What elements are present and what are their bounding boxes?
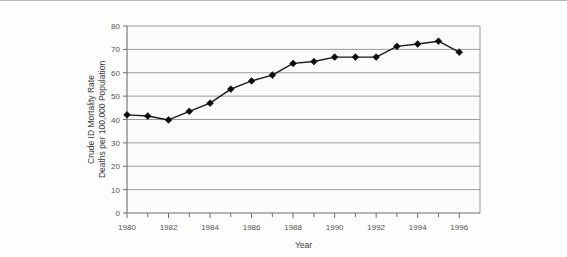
y-tick-label-30: 30 bbox=[111, 139, 120, 148]
x-axis-title: Year bbox=[295, 240, 312, 250]
y-tick-label-60: 60 bbox=[111, 69, 120, 78]
y-tick-label-40: 40 bbox=[111, 116, 120, 125]
y-axis-title-line-1: Crude ID Mortality Rate bbox=[86, 75, 96, 164]
x-tick-label-1990: 1990 bbox=[326, 223, 344, 232]
y-tick-label-10: 10 bbox=[111, 186, 120, 195]
x-tick-label-1980: 1980 bbox=[118, 223, 136, 232]
x-tick-label-1984: 1984 bbox=[201, 223, 219, 232]
y-axis-title-line-2: Deaths per 100,000 Population bbox=[97, 61, 107, 178]
y-tick-label-0: 0 bbox=[116, 209, 121, 218]
x-tick-label-1992: 1992 bbox=[367, 223, 385, 232]
x-tick-label-1994: 1994 bbox=[409, 223, 427, 232]
x-axis-ticks: 198019821984198619881990199219941996 bbox=[118, 213, 469, 232]
y-tick-label-80: 80 bbox=[111, 22, 120, 31]
y-axis-ticks: 01020304050607080 bbox=[111, 22, 127, 218]
y-tick-label-20: 20 bbox=[111, 162, 120, 171]
y-tick-label-50: 50 bbox=[111, 92, 120, 101]
x-tick-label-1982: 1982 bbox=[160, 223, 178, 232]
x-tick-label-1996: 1996 bbox=[450, 223, 468, 232]
y-tick-label-70: 70 bbox=[111, 45, 120, 54]
figure-container: 01020304050607080 1980198219841986198819… bbox=[0, 0, 567, 257]
line-chart: 01020304050607080 1980198219841986198819… bbox=[0, 1, 567, 257]
x-tick-label-1986: 1986 bbox=[243, 223, 261, 232]
x-tick-label-1988: 1988 bbox=[284, 223, 302, 232]
